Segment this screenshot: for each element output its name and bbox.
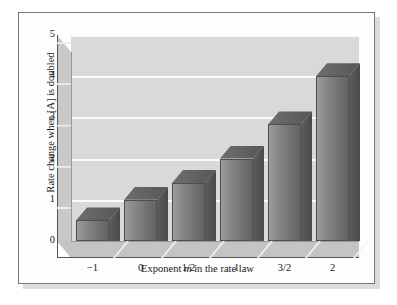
- bar-front-face: [124, 200, 157, 241]
- x-axis-back-line: [71, 241, 359, 242]
- x-axis-title-variable: m: [184, 263, 192, 274]
- bar-front-face: [220, 159, 253, 241]
- figure-card: Rate change when [A] is doubled 012345 −…: [18, 12, 375, 284]
- bar-front-face: [76, 220, 109, 241]
- side-gridline: [57, 42, 71, 44]
- side-gridline: [57, 207, 71, 209]
- y-axis-tick-label: 5: [33, 28, 55, 39]
- y-axis-tick-label: 2: [33, 152, 55, 163]
- bar: [124, 187, 168, 241]
- gridline: [71, 35, 359, 37]
- y-axis-tick-label: 0: [33, 234, 55, 245]
- y-axis-back-line: [71, 52, 72, 241]
- bar-side-face: [253, 146, 264, 241]
- bar-side-face: [349, 63, 360, 241]
- x-axis-title: Exponent m in the rate law: [19, 263, 376, 274]
- bar: [172, 170, 216, 241]
- bar-front-face: [172, 183, 205, 241]
- y-axis-tick-labels: 012345: [25, 13, 55, 285]
- bar-front-face: [316, 76, 349, 241]
- bar: [76, 207, 120, 241]
- x-axis-line: [57, 257, 359, 258]
- bar: [268, 111, 312, 241]
- y-axis-tick-label: 4: [33, 69, 55, 80]
- x-axis-title-suffix: in the rate law: [192, 263, 254, 274]
- bar-front-face: [268, 124, 301, 241]
- side-gridline: [57, 83, 71, 85]
- side-gridline: [57, 166, 71, 168]
- bar: [316, 63, 360, 241]
- chart-left-wall: [57, 35, 71, 241]
- y-axis-line: [57, 35, 58, 258]
- x-axis-title-prefix: Exponent: [141, 263, 184, 274]
- y-axis-tick-label: 1: [33, 193, 55, 204]
- bar: [220, 146, 264, 241]
- y-axis-tick-label: 3: [33, 110, 55, 121]
- side-gridline: [57, 125, 71, 127]
- bar-side-face: [301, 111, 312, 241]
